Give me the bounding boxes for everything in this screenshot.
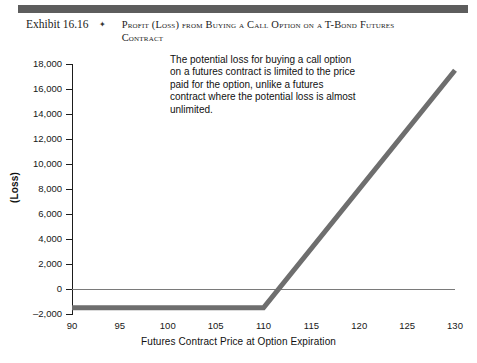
exhibit-number: Exhibit 16.16 (26, 18, 89, 31)
annotation-text: The potential loss for buying a call opt… (170, 54, 360, 116)
x-axis-title: Futures Contract Price at Option Expirat… (0, 336, 477, 347)
diamond-bullet-icon: ✦ (89, 18, 106, 31)
exhibit-header: Exhibit 16.16 ✦ Profit (Loss) from Buyin… (26, 18, 466, 44)
exhibit-title: Profit (Loss) from Buying a Call Option … (122, 18, 422, 44)
header-rule-bar (18, 5, 468, 13)
chart-plot-area: (Loss) –2,00002,0004,0006,0008,00010,000… (0, 50, 477, 350)
exhibit-page: Exhibit 16.16 ✦ Profit (Loss) from Buyin… (0, 0, 477, 363)
